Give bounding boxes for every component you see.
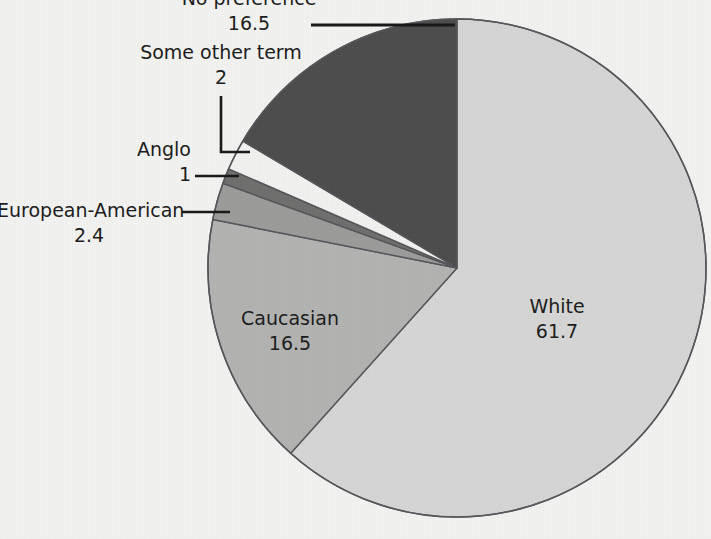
slice-label-white-name: White: [497, 294, 617, 319]
slice-label-caucasian: Caucasian 16.5: [225, 306, 355, 356]
slice-label-anglo-value: 1: [41, 162, 191, 187]
slice-label-anglo-name: Anglo: [41, 137, 191, 162]
slice-label-european-american-value-wrap: 2.4: [34, 223, 144, 248]
pie-chart: No preference 16.5 Some other term 2 Ang…: [0, 0, 711, 539]
slice-label-anglo: Anglo 1: [41, 137, 191, 187]
slice-label-white-value: 61.7: [497, 319, 617, 344]
slice-label-some-other-term-name: Some other term: [121, 40, 321, 65]
slice-label-european-american-value: 2.4: [34, 223, 144, 248]
slice-label-no-preference-name: No preference: [169, 0, 329, 11]
slice-label-some-other-term-value: 2: [121, 65, 321, 90]
slice-label-caucasian-name: Caucasian: [225, 306, 355, 331]
slice-label-some-other-term: Some other term 2: [121, 40, 321, 90]
slice-label-caucasian-value: 16.5: [225, 331, 355, 356]
slice-label-no-preference-value: 16.5: [169, 11, 329, 36]
pie-chart-canvas: [0, 0, 711, 539]
slice-label-european-american: European-American: [0, 198, 177, 223]
slice-label-white: White 61.7: [497, 294, 617, 344]
slice-label-no-preference: No preference 16.5: [169, 0, 329, 36]
slice-label-european-american-name: European-American: [0, 198, 177, 223]
